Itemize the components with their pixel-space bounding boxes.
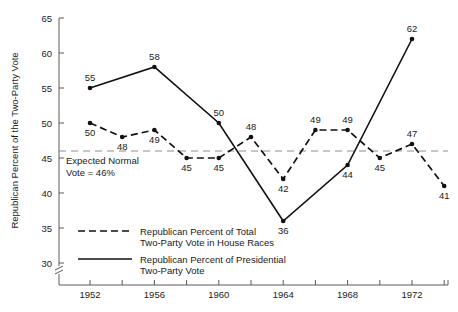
data-point-house-1972 [410, 142, 415, 147]
data-point-house-1964 [281, 177, 286, 182]
legend-label-house-line2: Two-Party Vote in House Races [140, 237, 274, 248]
data-point-presidential-1960 [217, 121, 222, 126]
data-point-presidential-1968 [345, 163, 350, 168]
data-label-house-1952: 50 [85, 127, 96, 138]
x-tick-label: 1972 [401, 289, 422, 300]
y-axis-title: Republican Percent of the Two-Party Vote [9, 52, 20, 228]
x-tick-label: 1956 [144, 289, 165, 300]
data-point-house-1954 [120, 135, 125, 140]
data-label-house-1966: 49 [310, 114, 321, 125]
data-point-presidential-1964 [281, 219, 286, 224]
y-tick-label: 65 [41, 13, 52, 24]
legend-label-presidential-line2: Two-Party Vote [140, 265, 204, 276]
data-label-house-1964: 42 [278, 183, 289, 194]
data-label-presidential-1972: 62 [407, 23, 418, 34]
expected-normal-vote-label-line2: Vote = 46% [66, 167, 115, 178]
data-label-presidential-1952: 55 [85, 72, 96, 83]
data-point-house-1974 [442, 184, 447, 189]
data-label-house-1962: 48 [246, 121, 257, 132]
data-point-presidential-1972 [410, 37, 415, 42]
y-tick-label: 35 [41, 223, 52, 234]
data-label-house-1968: 49 [342, 114, 353, 125]
chart-container: 3035404550556065Republican Percent of th… [0, 0, 458, 312]
data-point-house-1952 [88, 121, 93, 126]
data-label-house-1974: 41 [439, 190, 450, 201]
data-point-house-1962 [249, 135, 254, 140]
data-point-house-1968 [345, 128, 350, 133]
y-tick-label: 30 [41, 258, 52, 269]
legend-label-presidential-line1: Republican Percent of Presidential [140, 254, 286, 265]
data-label-presidential-1968: 44 [342, 169, 353, 180]
y-tick-label: 50 [41, 118, 52, 129]
data-point-presidential-1956 [152, 65, 157, 70]
y-tick-label: 60 [41, 48, 52, 59]
y-tick-label: 40 [41, 188, 52, 199]
data-label-house-1954: 48 [117, 141, 128, 152]
x-tick-label: 1952 [79, 289, 100, 300]
data-label-presidential-1964: 36 [278, 225, 289, 236]
data-label-house-1970: 45 [375, 162, 386, 173]
x-tick-label: 1960 [208, 289, 229, 300]
data-point-house-1966 [313, 128, 318, 133]
data-label-house-1958: 45 [181, 162, 192, 173]
data-point-presidential-1952 [88, 86, 93, 91]
data-point-house-1958 [184, 156, 189, 161]
axis-break-mark [55, 266, 63, 270]
legend-label-house-line1: Republican Percent of Total [140, 226, 256, 237]
y-tick-label: 55 [41, 83, 52, 94]
x-tick-label: 1968 [337, 289, 358, 300]
axis-break-mark [55, 270, 63, 274]
expected-normal-vote-label-line1: Expected Normal [66, 155, 139, 166]
data-point-house-1960 [217, 156, 222, 161]
data-label-presidential-1960: 50 [214, 107, 225, 118]
data-point-house-1970 [378, 156, 383, 161]
data-label-presidential-1956: 58 [149, 51, 160, 62]
data-label-house-1956: 49 [149, 134, 160, 145]
data-label-house-1960: 45 [214, 162, 225, 173]
y-tick-label: 45 [41, 153, 52, 164]
data-label-house-1972: 47 [407, 128, 418, 139]
series-line-house [90, 123, 444, 186]
line-chart: 3035404550556065Republican Percent of th… [0, 0, 458, 312]
x-tick-label: 1964 [273, 289, 294, 300]
data-point-house-1956 [152, 128, 157, 133]
